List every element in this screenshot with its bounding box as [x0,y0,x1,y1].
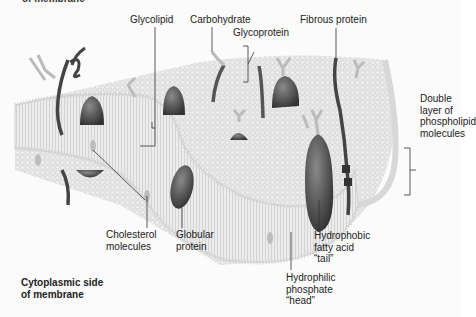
label-cytoplasmic-line2: of membrane [21,289,103,301]
label-hydrophilic-line3: “head” [286,295,335,307]
label-hydrophobic-line2: fatty acid [314,242,370,254]
label-hydrophilic-line1: Hydrophilic [286,272,335,284]
label-hydrophobic-line1: Hydrophobic [314,230,370,242]
label-double-layer: Double layer of phospholipid molecules [420,93,476,139]
label-double-layer-line2: layer of [420,105,476,117]
label-globular-line1: Globular [176,229,214,241]
label-cholesterol-line1: Cholesterol [106,229,157,241]
label-fibrous-protein: Fibrous protein [300,14,367,26]
label-hydrophobic-tail: Hydrophobic fatty acid “tail” [314,230,370,265]
label-cholesterol-line2: molecules [106,241,157,253]
label-hydrophilic-line2: phosphate [286,284,335,296]
label-globular-line2: protein [176,241,214,253]
label-double-layer-line3: phospholipid [420,116,476,128]
label-hydrophilic-head: Hydrophilic phosphate “head” [286,272,335,307]
label-globular-protein: Globular protein [176,229,214,252]
label-cytoplasmic-line1: Cytoplasmic side [21,277,103,289]
label-cholesterol: Cholesterol molecules [106,229,157,252]
label-carbohydrate: Carbohydrate [190,14,251,26]
label-double-layer-line4: molecules [420,128,476,140]
label-double-layer-line1: Double [420,93,476,105]
label-glycolipid: Glycolipid [130,14,173,26]
label-glycoprotein: Glycoprotein [233,27,289,39]
label-hydrophobic-line3: “tail” [314,253,370,265]
label-cytoplasmic-side: Cytoplasmic side of membrane [21,277,103,300]
